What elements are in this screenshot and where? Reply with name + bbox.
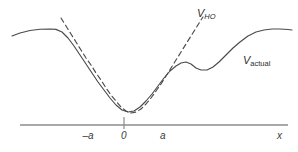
v-actual-curve	[12, 29, 292, 112]
v-ho-subscript: HO	[204, 12, 215, 21]
v-actual-label: Vactual	[243, 55, 270, 66]
v-actual-subscript: actual	[250, 59, 270, 68]
v-ho-label: VHO	[197, 8, 216, 19]
potential-plot-canvas	[0, 0, 298, 152]
x-tick-label-minus-a: –a	[83, 131, 94, 141]
x-tick-label-zero: 0	[121, 131, 127, 141]
potential-energy-figure: VHO Vactual –a 0 a x	[0, 0, 298, 152]
x-axis-label: x	[277, 131, 282, 141]
x-tick-label-a: a	[160, 131, 166, 141]
v-ho-curve	[61, 17, 203, 113]
